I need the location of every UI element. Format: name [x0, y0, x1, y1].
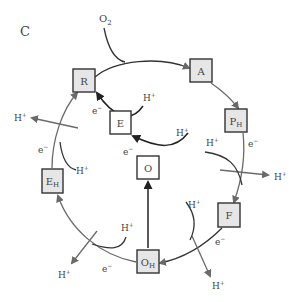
proton-label-PH: H+: [206, 136, 219, 148]
state-O: O: [137, 156, 159, 179]
electron-label-PH: e−: [248, 137, 258, 149]
proton-pump-arrow-left: [32, 118, 78, 128]
proton-uptake-EH: [60, 142, 76, 170]
state-F: F: [218, 203, 240, 227]
proton-pumped-right: H+: [274, 170, 287, 182]
proton-pumped-bottom-left: H+: [58, 268, 71, 280]
arrow-R-to-A: [95, 61, 189, 77]
arrow-F-to-OH: [160, 228, 222, 263]
svg-text:O: O: [144, 163, 152, 174]
proton-pumped-bottom-right: H+: [212, 279, 225, 291]
svg-text:R: R: [80, 76, 88, 87]
electron-label-F: e−: [215, 235, 225, 247]
state-E: E: [110, 111, 131, 134]
state-EH: EH: [42, 169, 63, 193]
proton-uptake-OH: [92, 237, 126, 248]
state-OH: OH: [137, 250, 159, 273]
electron-label-EH: e−: [38, 143, 48, 155]
oxygen-label: O2: [99, 13, 112, 27]
svg-text:A: A: [196, 66, 205, 77]
svg-text:E: E: [117, 118, 124, 129]
state-R: R: [73, 69, 95, 92]
proton-pumped-left: H+: [14, 111, 27, 123]
proton-label-EH: H+: [76, 164, 89, 176]
electron-label-E: e−: [123, 145, 133, 157]
arrow-A-to-PH: [211, 83, 238, 108]
proton-label-F: H+: [188, 198, 201, 210]
proton-label-E: H+: [176, 126, 189, 138]
proton-pump-arrow-bottom-right: [192, 236, 210, 276]
panel-label: C: [20, 24, 30, 39]
proton-uptake-PH: [205, 152, 242, 185]
svg-text:F: F: [226, 210, 233, 221]
arrow-EH-to-R: [52, 93, 77, 168]
proton-label-R: H+: [143, 91, 156, 103]
oxygen-binding-arrow: [104, 28, 125, 62]
svg-text:O2: O2: [99, 13, 112, 27]
proton-label-OH: H+: [121, 221, 134, 233]
state-A: A: [190, 59, 212, 82]
electron-label-OH: e−: [102, 262, 112, 274]
proton-pump-arrow-right: [220, 170, 268, 175]
state-PH: PH: [225, 109, 247, 132]
electron-label-R: e−: [92, 104, 102, 116]
catalytic-cycle-diagram: C O2 R A PH F OH EH: [0, 0, 298, 302]
